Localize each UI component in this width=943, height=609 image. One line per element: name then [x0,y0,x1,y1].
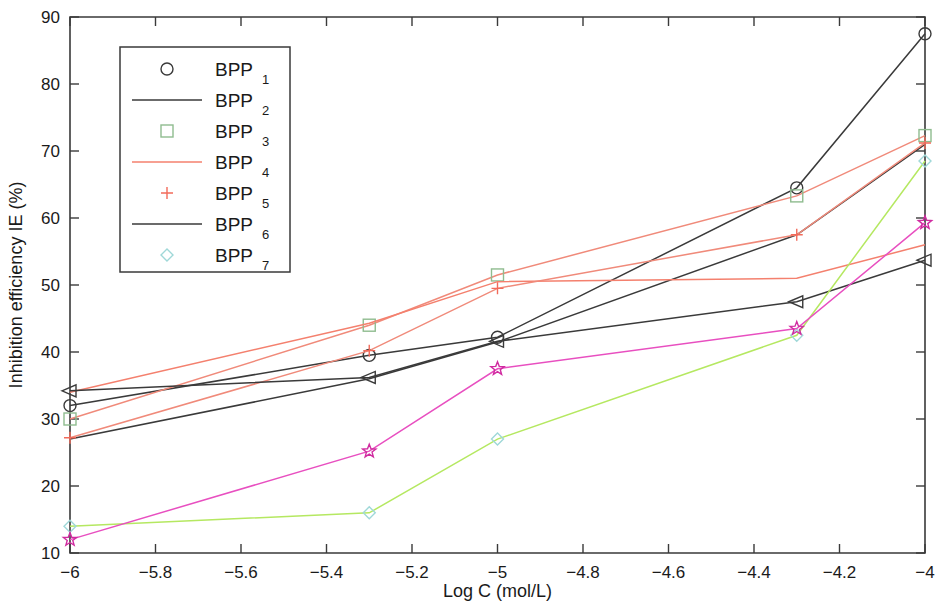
marker-plus-BPP5-2 [492,282,504,294]
x-tick-label: −5 [488,563,507,582]
legend-subscript-BPP2: 2 [262,103,269,118]
legend-layer: BPP1BPP2BPP3BPP4BPP5BPP6BPP7 [120,47,290,273]
x-tick-label: −5.6 [224,563,258,582]
plot-canvas: −6−5.8−5.6−5.4−5.2−5−4.8−4.6−4.4−4.2−410… [0,0,943,609]
x-tick-label: −4.2 [823,563,857,582]
y-tick-label: 10 [41,544,60,563]
legend-label-BPP4: BPP [215,152,253,173]
y-axis-title: Inhibition efficiency IE (%) [6,182,26,389]
legend-subscript-BPP6: 6 [262,227,269,242]
x-axis-title: Log C (mol/L) [443,581,552,601]
y-tick-label: 20 [41,477,60,496]
y-tick-label: 90 [41,8,60,27]
x-tick-label: −4.6 [652,563,686,582]
y-tick-label: 50 [41,276,60,295]
y-tick-label: 70 [41,142,60,161]
x-tick-label: −5.2 [395,563,429,582]
x-tick-label: −6 [60,563,79,582]
x-tick-label: −4.8 [566,563,600,582]
legend-subscript-BPP3: 3 [262,134,269,149]
legend-label-BPP2: BPP [215,90,253,111]
x-tick-label: −4 [915,563,934,582]
x-tick-label: −5.4 [310,563,344,582]
chart-figure: −6−5.8−5.6−5.4−5.2−5−4.8−4.6−4.4−4.2−410… [0,0,943,609]
x-tick-label: −5.8 [139,563,173,582]
marker-plus-BPP5-3 [791,229,803,241]
legend-subscript-BPP1: 1 [262,72,269,87]
legend-label-BPP6: BPP [215,214,253,235]
y-tick-label: 40 [41,343,60,362]
legend-label-BPP7: BPP [215,245,253,266]
y-tick-label: 80 [41,75,60,94]
legend-label-BPP1: BPP [215,59,253,80]
legend-label-BPP5: BPP [215,183,253,204]
y-tick-label: 30 [41,410,60,429]
legend-subscript-BPP4: 4 [262,165,269,180]
x-tick-label: −4.4 [737,563,771,582]
marker-plus-BPP5-0 [64,432,76,444]
y-tick-label: 60 [41,209,60,228]
legend-label-BPP3: BPP [215,121,253,142]
legend-subscript-BPP5: 5 [262,196,269,211]
legend-subscript-BPP7: 7 [262,258,269,273]
